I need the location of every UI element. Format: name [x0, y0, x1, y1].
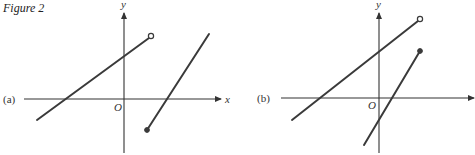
x-axis-label: x — [224, 93, 230, 105]
segment-right-piece — [147, 34, 209, 130]
origin-label: O — [368, 99, 376, 111]
panel-b: (b) y O — [257, 0, 474, 153]
open-endpoint-icon — [417, 16, 422, 21]
panel-b-label: (b) — [257, 92, 270, 105]
figure-caption: Figure 2 — [2, 1, 44, 15]
segment-left-piece — [292, 21, 418, 120]
panel-a-label: (a) — [3, 93, 16, 106]
figure-2: Figure 2 (a) x y O (b) y O — [0, 0, 475, 155]
y-axis-label: y — [120, 0, 126, 10]
segment-left-piece — [37, 38, 149, 120]
panel-a: (a) x y O — [3, 0, 230, 153]
origin-label: O — [114, 101, 122, 113]
open-endpoint-icon — [148, 33, 153, 38]
closed-endpoint-icon — [145, 128, 150, 133]
y-axis-label: y — [375, 0, 381, 10]
closed-endpoint-icon — [418, 49, 423, 54]
